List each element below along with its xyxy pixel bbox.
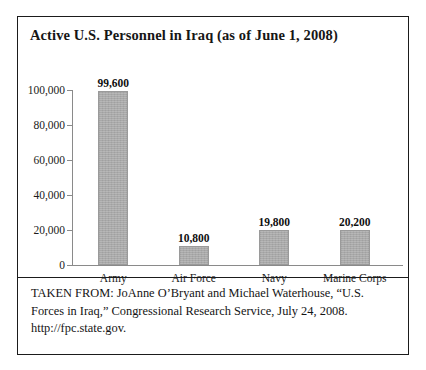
y-axis-tick-label: 100,000 — [28, 84, 65, 96]
y-axis-tick — [67, 265, 73, 266]
bar-slot: 10,800Air Force — [154, 90, 235, 265]
figure-container: Active U.S. Personnel in Iraq (as of Jun… — [17, 16, 409, 355]
bar-value-label: 20,200 — [339, 216, 371, 228]
bar-value-label: 99,600 — [97, 77, 129, 89]
plot-area: 020,00040,00060,00080,000100,000 99,600A… — [73, 90, 395, 265]
bar-value-label: 19,800 — [258, 216, 290, 228]
y-axis-tick-label: 40,000 — [33, 189, 65, 201]
y-axis-tick-label: 20,000 — [33, 224, 65, 236]
caption-divider — [18, 277, 408, 278]
figure-caption: TAKEN FROM: JoAnne O’Bryant and Michael … — [31, 285, 393, 338]
bar-slot: 99,600Army — [73, 90, 154, 265]
bar[interactable]: 10,800 — [179, 246, 209, 265]
bar[interactable]: 99,600 — [98, 91, 128, 265]
bar-value-label: 10,800 — [178, 232, 210, 244]
bar[interactable]: 19,800 — [259, 230, 289, 265]
bar[interactable]: 20,200 — [340, 230, 370, 265]
figure-title: Active U.S. Personnel in Iraq (as of Jun… — [30, 27, 338, 44]
y-axis-tick-label: 0 — [59, 259, 65, 271]
y-axis-tick-label: 80,000 — [33, 119, 65, 131]
bar-slot: 19,800Navy — [234, 90, 315, 265]
bar-chart: 020,00040,00060,00080,000100,000 99,600A… — [18, 57, 407, 277]
bar-slot: 20,200Marine Corps — [315, 90, 396, 265]
y-axis-tick-label: 60,000 — [33, 154, 65, 166]
